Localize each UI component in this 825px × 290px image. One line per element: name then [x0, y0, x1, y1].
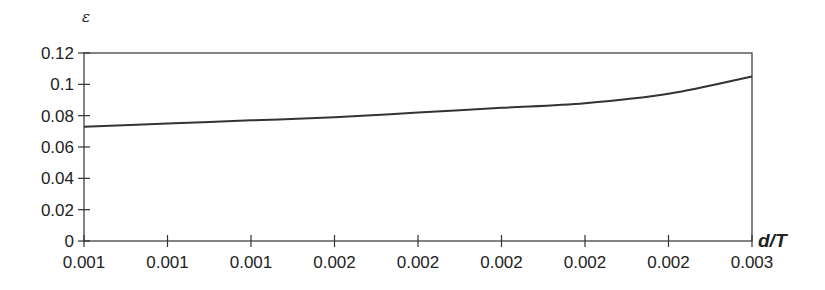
- y-tick-label: 0.08: [41, 107, 74, 126]
- x-tick-label: 0.002: [564, 253, 607, 272]
- y-tick-label: 0.1: [50, 75, 74, 94]
- x-tick-label: 0.002: [397, 253, 440, 272]
- x-tick-label: 0.002: [313, 253, 356, 272]
- x-tick-label: 0.001: [146, 253, 189, 272]
- y-tick-label: 0.02: [41, 201, 74, 220]
- series-line: [84, 77, 752, 127]
- x-tick-label: 0.003: [731, 253, 774, 272]
- y-axis-label: ε: [82, 8, 90, 26]
- x-tick-label: 0.001: [63, 253, 106, 272]
- x-tick-label: 0.002: [480, 253, 523, 272]
- y-tick-label: 0.06: [41, 138, 74, 157]
- y-axis: 00.020.040.060.080.10.12: [41, 44, 90, 251]
- x-tick-label: 0.001: [230, 253, 273, 272]
- x-tick-label: 0.002: [647, 253, 690, 272]
- y-tick-label: 0: [65, 232, 74, 251]
- plot-frame: [84, 53, 752, 241]
- y-tick-label: 0.12: [41, 44, 74, 63]
- x-axis-label: d/T: [758, 230, 788, 251]
- line-chart: 00.020.040.060.080.10.12 0.0010.0010.001…: [0, 0, 825, 290]
- y-tick-label: 0.04: [41, 169, 74, 188]
- plot-border: [84, 53, 752, 241]
